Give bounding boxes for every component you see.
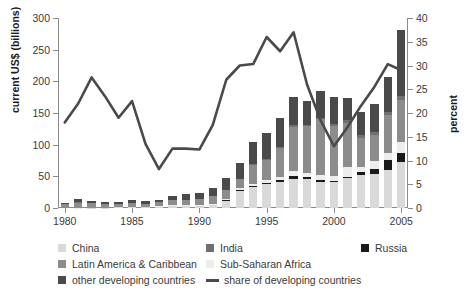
x-axis-tick-label: 1980 [53,216,76,227]
legend-row: China India Russia [58,240,458,256]
y-axis-left-tick-label: 250 [32,44,50,55]
legend-item-latin-america-caribbean[interactable]: Latin America & Caribbean [58,258,206,270]
y-axis-left-tick-label: 300 [32,13,50,24]
legend-label: share of developing countries [224,274,361,286]
y-axis-right-tick-label: 10 [416,155,428,166]
y-axis-right-tick-label: 30 [416,60,428,71]
legend-swatch-icon [58,276,66,284]
y-axis-right-title: percent [447,95,459,133]
y-axis-right-tick-label: 40 [416,13,428,24]
x-axis-tick [267,208,268,213]
y-axis-right-tick [408,137,413,138]
y-axis-left-title: current US$ (billions) [9,7,21,113]
legend-item-china[interactable]: China [58,242,206,254]
legend-item-russia[interactable]: Russia [361,242,456,254]
y-axis-right-tick-label: 35 [416,37,428,48]
y-axis-right-tick [408,66,413,67]
y-axis-right-tick [408,18,413,19]
x-axis-tick [132,208,133,213]
chart-legend: China India Russia Latin America & Carib… [58,240,458,288]
y-axis-left-tick-label: 200 [32,76,50,87]
legend-label: India [220,242,243,254]
y-axis-right-tick [408,42,413,43]
x-axis-tick-label: 1995 [255,216,278,227]
y-axis-left-tick-label: 100 [32,139,50,150]
y-axis-left-tick-label: 50 [38,171,50,182]
y-axis-right-tick-label: 25 [416,84,428,95]
legend-row: Latin America & Caribbean Sub-Saharan Af… [58,256,458,272]
share-of-developing-countries-line [65,32,402,169]
legend-label: Russia [375,242,407,254]
legend-swatch-icon [206,244,214,252]
y-axis-left-tick-label: 0 [44,203,50,214]
y-axis-right-tick-label: 20 [416,108,428,119]
legend-label: China [72,242,99,254]
line-series-overlay [58,18,408,208]
y-axis-right-tick [408,184,413,185]
legend-item-share-of-developing-countries[interactable]: share of developing countries [206,274,361,286]
legend-item-sub-saharan-africa[interactable]: Sub-Saharan Africa [206,258,361,270]
x-axis-tick [65,208,66,213]
legend-swatch-icon [58,244,66,252]
legend-swatch-icon [58,260,66,268]
legend-row: other developing countries share of deve… [58,272,458,288]
chart-figure: current US$ (billions) percent 050100150… [0,0,467,298]
y-axis-right-tick [408,161,413,162]
y-axis-right-tick-label: 5 [416,179,422,190]
y-axis-left-tick [53,208,58,209]
plot-area: 050100150200250300 0510152025303540 1980… [58,18,408,208]
y-axis-left-tick-label: 150 [32,108,50,119]
legend-line-icon [206,279,219,282]
legend-swatch-icon [361,244,369,252]
x-axis-tick [334,208,335,213]
legend-label: Latin America & Caribbean [72,258,197,270]
x-axis-tick [199,208,200,213]
y-axis-right-tick [408,208,413,209]
legend-item-other-developing-countries[interactable]: other developing countries [58,274,206,286]
legend-label: other developing countries [72,274,195,286]
x-axis-tick-label: 2005 [390,216,413,227]
x-axis-tick-label: 2000 [322,216,345,227]
y-axis-right-tick-label: 15 [416,132,428,143]
y-axis-right-tick [408,89,413,90]
y-axis-right-tick-label: 0 [416,203,422,214]
y-axis-right-tick [408,113,413,114]
legend-swatch-icon [206,260,214,268]
x-axis-tick [401,208,402,213]
x-axis-tick-label: 1990 [188,216,211,227]
legend-label: Sub-Saharan Africa [220,258,311,270]
x-axis-tick-label: 1985 [120,216,143,227]
legend-item-india[interactable]: India [206,242,361,254]
